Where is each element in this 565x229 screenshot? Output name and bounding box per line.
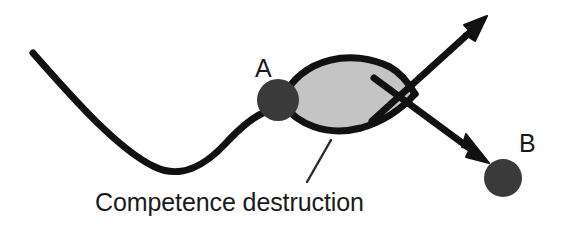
competence-destruction-caption: Competence destruction [95,188,364,216]
diagram-canvas: A B Competence destruction [0,0,565,229]
node-a-label: A [255,54,272,82]
diagram-root: A B Competence destruction [0,0,565,229]
node-b-circle[interactable] [484,159,522,197]
node-b-label: B [519,129,536,157]
node-a-circle[interactable] [257,79,299,121]
